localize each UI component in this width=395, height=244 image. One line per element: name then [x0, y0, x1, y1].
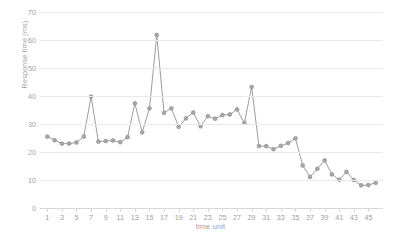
x-axis-tick-mark [295, 208, 296, 212]
x-axis-tick-label: 11 [117, 213, 124, 222]
response-time-line-chart: Response time (ms) 010203040506070 13579… [0, 0, 395, 244]
x-axis-tick-label: 13 [131, 213, 139, 222]
data-point-marker [345, 170, 349, 174]
y-axis-tick-label: 30 [10, 120, 36, 129]
data-point-marker [67, 142, 71, 146]
data-point-marker [162, 111, 166, 115]
y-axis-tick-label: 60 [10, 36, 36, 45]
data-point-marker [177, 125, 181, 129]
x-axis-tick-mark [237, 208, 238, 212]
x-axis-tick-label: 43 [350, 213, 358, 222]
x-axis-tick-mark [281, 208, 282, 212]
gridline [40, 68, 383, 69]
x-axis-tick-label: 37 [306, 213, 314, 222]
data-point-marker [133, 101, 137, 105]
data-point-marker [359, 183, 363, 187]
x-axis-tick-label: 31 [262, 213, 270, 222]
data-point-marker [53, 138, 57, 142]
data-point-marker [126, 135, 130, 139]
data-point-marker [294, 136, 298, 140]
x-axis-tick-mark [266, 208, 267, 212]
data-point-marker [184, 117, 188, 121]
x-axis-tick-label: 41 [335, 213, 343, 222]
x-axis-tick-mark [120, 208, 121, 212]
x-axis-tick-label: 23 [204, 213, 212, 222]
data-point-marker [104, 139, 108, 143]
x-axis-tick-label: 33 [277, 213, 285, 222]
data-point-marker [250, 85, 254, 89]
x-axis-tick-mark [91, 208, 92, 212]
x-axis-tick-label: 7 [89, 213, 93, 222]
x-axis-tick-mark [252, 208, 253, 212]
x-axis-tick-label: 25 [218, 213, 226, 222]
x-axis-tick-mark [164, 208, 165, 212]
data-point-marker [118, 140, 122, 144]
x-axis-tick-labels: 1357911131517192123252729313335373941434… [40, 208, 383, 222]
data-point-marker [169, 106, 173, 110]
x-axis-tick-label: 45 [364, 213, 372, 222]
gridline [40, 124, 383, 125]
data-point-marker [308, 175, 312, 179]
data-point-marker [221, 113, 225, 117]
x-axis-tick-label: 1 [45, 213, 49, 222]
x-axis-tick-mark [135, 208, 136, 212]
x-axis-tick-mark [310, 208, 311, 212]
x-axis-tick-mark [368, 208, 369, 212]
x-axis-tick-label: 5 [74, 213, 78, 222]
y-axis-tick-label: 40 [10, 92, 36, 101]
x-axis-tick-label: 19 [175, 213, 183, 222]
data-point-marker [45, 135, 49, 139]
x-axis-tick-label: 3 [60, 213, 64, 222]
x-axis-tick-label: 39 [321, 213, 329, 222]
x-axis-tick-label: 27 [233, 213, 241, 222]
y-axis-tick-labels: 010203040506070 [8, 12, 36, 208]
y-axis-tick-label: 70 [10, 8, 36, 17]
x-axis-tick-mark [222, 208, 223, 212]
gridline [40, 152, 383, 153]
data-point-marker [140, 131, 144, 135]
x-axis-tick-label: 21 [189, 213, 197, 222]
x-axis-tick-mark [62, 208, 63, 212]
data-point-marker [155, 33, 159, 37]
gridline [40, 40, 383, 41]
data-point-marker [330, 173, 334, 177]
data-point-marker [367, 183, 371, 187]
data-point-marker [206, 114, 210, 118]
y-axis-tick-label: 0 [10, 204, 36, 213]
data-point-marker [323, 159, 327, 163]
y-axis-tick-label: 20 [10, 148, 36, 157]
data-point-marker [301, 164, 305, 168]
data-series-line [40, 12, 383, 208]
data-point-marker [286, 141, 290, 145]
data-point-marker [148, 106, 152, 110]
data-point-marker [96, 140, 100, 144]
x-axis-tick-mark [325, 208, 326, 212]
x-axis-tick-mark [193, 208, 194, 212]
x-axis-tick-label: 17 [160, 213, 168, 222]
data-point-marker [315, 167, 319, 171]
series-polyline [47, 35, 375, 185]
data-point-marker [228, 113, 232, 117]
data-point-marker [111, 139, 115, 143]
x-axis-tick-mark [208, 208, 209, 212]
x-axis-tick-mark [149, 208, 150, 212]
gridline [40, 96, 383, 97]
data-point-marker [75, 141, 79, 145]
x-axis-tick-label: 15 [145, 213, 153, 222]
data-point-marker [235, 108, 239, 112]
plot-area [40, 12, 383, 208]
y-axis-tick-label: 50 [10, 64, 36, 73]
data-point-marker [257, 144, 261, 148]
x-axis-tick-mark [354, 208, 355, 212]
x-axis-tick-label: 29 [248, 213, 256, 222]
data-point-marker [191, 111, 195, 115]
data-point-marker [272, 147, 276, 151]
data-point-marker [82, 135, 86, 139]
data-point-marker [374, 181, 378, 185]
data-point-marker [279, 144, 283, 148]
y-axis-tick-label: 10 [10, 176, 36, 185]
x-axis-tick-mark [47, 208, 48, 212]
x-axis-tick-label: 35 [291, 213, 299, 222]
gridline [40, 12, 383, 13]
x-axis-tick-mark [76, 208, 77, 212]
